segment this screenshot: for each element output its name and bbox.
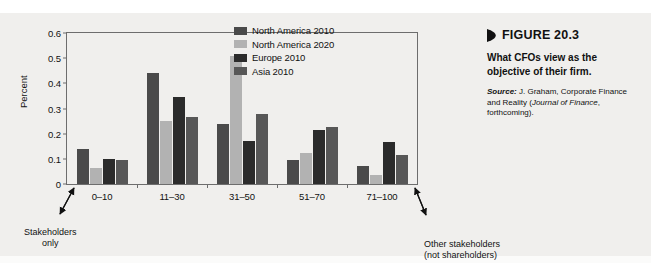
chart-legend: North America 2010North America 2020Euro… <box>234 25 334 77</box>
legend-label: Asia 2010 <box>252 66 293 77</box>
triangle-right-icon <box>487 29 496 42</box>
legend-item: North America 2020 <box>234 39 334 50</box>
bar <box>186 117 198 184</box>
right-axis-annotation-line-1: Other stakeholders <box>424 239 500 250</box>
legend-swatch <box>234 67 247 75</box>
bar <box>77 149 89 184</box>
x-axis-tick-mark <box>347 184 348 188</box>
left-axis-annotation: Stakeholders only <box>24 227 77 249</box>
bar-group <box>347 33 417 184</box>
y-axis-tick-label: 0.1 <box>48 153 61 164</box>
legend-label: North America 2020 <box>252 39 334 50</box>
legend-item: Europe 2010 <box>234 52 334 63</box>
legend-swatch <box>234 54 247 62</box>
legend-item: Asia 2010 <box>234 66 334 77</box>
bar <box>357 166 369 184</box>
bar-chart: Percent 00.10.20.30.40.50.60–1011–3031–5… <box>0 13 460 263</box>
x-axis-tick-label: 31–50 <box>229 191 255 202</box>
bar <box>217 124 229 184</box>
figure-source: Source: J. Graham, Corporate Finance and… <box>487 87 637 119</box>
bar <box>256 114 268 184</box>
bar <box>370 175 382 184</box>
x-axis-tick-mark <box>207 184 208 188</box>
x-axis-tick-label: 11–30 <box>159 191 184 202</box>
bar <box>103 159 115 184</box>
legend-label: North America 2010 <box>252 25 334 36</box>
right-axis-annotation: Other stakeholders (not shareholders) <box>424 239 500 261</box>
bar <box>243 141 255 184</box>
page-top-margin <box>0 0 651 13</box>
figure-source-lead: Source: <box>487 87 517 96</box>
figure-heading: FIGURE 20.3 <box>487 28 637 42</box>
left-axis-annotation-line-1: Stakeholders <box>24 227 77 238</box>
x-axis-tick-label: 0–10 <box>92 191 113 202</box>
bar <box>396 155 408 184</box>
bar <box>116 160 128 184</box>
x-axis-tick-mark <box>277 184 278 188</box>
bar-group <box>67 33 137 184</box>
bar <box>147 73 159 184</box>
figure-title: What CFOs view as the objective of their… <box>487 51 637 78</box>
right-annotation-arrow <box>404 181 440 229</box>
figure-page: Percent 00.10.20.30.40.50.60–1011–3031–5… <box>0 0 651 263</box>
y-axis-tick-label: 0.3 <box>48 103 61 114</box>
left-annotation-arrow <box>50 181 84 225</box>
bar <box>90 168 102 184</box>
y-axis-tick-label: 0.2 <box>48 128 61 139</box>
x-axis-tick-label: 71–100 <box>366 191 397 202</box>
y-axis-title: Percent <box>18 75 29 108</box>
bar <box>160 121 172 184</box>
figure-source-journal: Journal of Finance <box>532 98 598 107</box>
right-axis-annotation-line-2: (not shareholders) <box>424 250 500 261</box>
bar <box>287 160 299 184</box>
y-axis-tick-label: 0.5 <box>48 53 61 64</box>
x-axis-tick-mark <box>137 184 138 188</box>
left-axis-annotation-line-2: only <box>24 238 77 249</box>
figure-caption-panel: FIGURE 20.3 What CFOs view as the object… <box>487 28 637 119</box>
x-axis-tick-label: 51–70 <box>299 191 325 202</box>
legend-label: Europe 2010 <box>252 52 305 63</box>
bar <box>173 97 185 184</box>
bar <box>383 142 395 184</box>
figure-number: FIGURE 20.3 <box>502 28 579 42</box>
legend-swatch <box>234 27 247 35</box>
legend-item: North America 2010 <box>234 25 334 36</box>
y-axis-tick-label: 0.6 <box>48 28 61 39</box>
legend-swatch <box>234 40 247 48</box>
bar-group <box>137 33 207 184</box>
y-axis-tick-label: 0.4 <box>48 78 61 89</box>
bar <box>326 127 338 184</box>
bar <box>300 153 312 184</box>
bar <box>313 130 325 184</box>
